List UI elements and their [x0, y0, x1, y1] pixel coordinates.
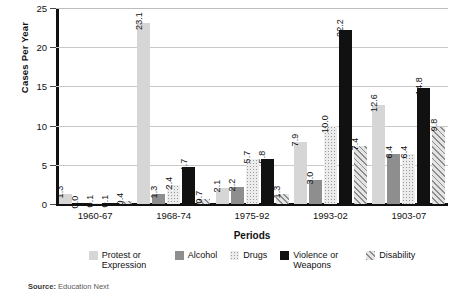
bar[interactable]: 0.4: [119, 201, 132, 204]
bar[interactable]: 6.4: [387, 154, 400, 204]
bar-slot: 12.6: [372, 8, 385, 204]
legend-item[interactable]: Protest or Expression: [89, 250, 162, 270]
bar-slot: 2.2: [231, 8, 244, 204]
bar-slot: 0.0: [74, 8, 87, 204]
bar-slot: 0.7: [197, 8, 210, 204]
bar-value-label: 2.4: [164, 177, 174, 190]
legend-item[interactable]: Alcohol: [175, 250, 218, 260]
bar-value-label: 7.4: [350, 138, 360, 151]
bar-slot: 5.8: [261, 8, 274, 204]
bar-value-label: 0.4: [115, 192, 125, 205]
bar-value-label: 5.8: [257, 150, 267, 163]
bar-slot: 3.0: [309, 8, 322, 204]
bar-slot: 0.4: [119, 8, 132, 204]
legend-item[interactable]: Violence or Weapons: [280, 250, 353, 270]
bar-value-label: 10.0: [320, 115, 330, 133]
bar[interactable]: 2.4: [167, 185, 180, 204]
y-axis-title: Cases Per Year: [19, 0, 30, 118]
bar-slot: 2.1: [216, 8, 229, 204]
bar-slot: 0.1: [89, 8, 102, 204]
bar-group: 23.11.32.44.70.7: [134, 8, 212, 204]
bar-slot: 14.8: [417, 8, 430, 204]
legend-swatch: [366, 251, 375, 260]
bar-value-label: 5.7: [242, 151, 252, 164]
source-note: Source: Education Next: [28, 282, 109, 290]
bar[interactable]: 7.4: [354, 146, 367, 204]
source-prefix: Source:: [28, 282, 56, 290]
bar-chart: Cases Per Year 0510152025 1.30.00.10.10.…: [0, 0, 456, 290]
bar-slot: 4.7: [182, 8, 195, 204]
bar[interactable]: 23.1: [137, 23, 150, 204]
bar[interactable]: 1.3: [276, 194, 289, 204]
source-text: Education Next: [58, 282, 109, 290]
bar[interactable]: 6.4: [402, 154, 415, 204]
legend-item[interactable]: Drugs: [230, 250, 267, 260]
bar[interactable]: 5.7: [246, 159, 259, 204]
bar-slot: 6.4: [387, 8, 400, 204]
y-axis-tick-label: 10: [36, 120, 47, 131]
bar-slot: 1.3: [152, 8, 165, 204]
legend-swatch: [175, 251, 184, 260]
bar-value-label: 23.1: [134, 12, 144, 30]
legend-label: Violence or Weapons: [293, 250, 353, 270]
y-axis-tick-label: 20: [36, 42, 47, 53]
bar[interactable]: 3.0: [309, 180, 322, 204]
plot-area: 0510152025 1.30.00.10.10.423.11.32.44.70…: [56, 8, 448, 204]
bar[interactable]: 9.8: [432, 127, 445, 204]
y-axis-tick: [50, 204, 56, 205]
bar[interactable]: 14.8: [417, 88, 430, 204]
bar-slot: 9.8: [432, 8, 445, 204]
bar-value-label: 6.4: [399, 145, 409, 158]
y-axis-tick-label: 15: [36, 81, 47, 92]
bar-slot: 0.1: [104, 8, 117, 204]
bar-group: 7.93.010.022.27.4: [291, 8, 369, 204]
x-axis-tick-label: 1975-92: [213, 210, 291, 221]
bar-slot: 1.3: [59, 8, 72, 204]
bar-value-label: 22.2: [335, 19, 345, 37]
legend-swatch: [230, 251, 239, 260]
bar-slot: 10.0: [324, 8, 337, 204]
bar-slot: 6.4: [402, 8, 415, 204]
bar-value-label: 12.6: [369, 94, 379, 112]
legend-label: Drugs: [243, 250, 267, 260]
bar-value-label: 0.7: [194, 190, 204, 203]
bar-value-label: 1.3: [149, 185, 159, 198]
bar-value-label: 2.2: [227, 178, 237, 191]
x-axis-tick-label: 1960-67: [56, 210, 134, 221]
bar-slot: 2.4: [167, 8, 180, 204]
bar-slot: 23.1: [137, 8, 150, 204]
legend-item[interactable]: Disability: [366, 250, 415, 260]
bar[interactable]: 22.2: [339, 30, 352, 204]
x-axis-tick-label: 1993-02: [291, 210, 369, 221]
legend-label: Protest or Expression: [102, 250, 162, 270]
x-axis-tick-label: 1968-74: [134, 210, 212, 221]
bar-slot: 7.4: [354, 8, 367, 204]
legend-label: Alcohol: [188, 250, 218, 260]
bar[interactable]: 10.0: [324, 126, 337, 204]
legend-swatch: [280, 251, 289, 260]
x-axis-tick-labels: 1960-671968-741975-921993-021903-07: [56, 210, 448, 221]
y-axis-tick-label: 25: [36, 3, 47, 14]
bar-value-label: 2.1: [212, 179, 222, 192]
legend-label: Disability: [379, 250, 415, 260]
bar-value-label: 0.0: [70, 196, 80, 209]
bar-value-label: 0.1: [100, 194, 110, 207]
bar-value-label: 1.3: [55, 185, 65, 198]
bar-group: 1.30.00.10.10.4: [56, 8, 134, 204]
bar-value-label: 14.8: [414, 77, 424, 95]
bar-value-label: 7.9: [290, 134, 300, 147]
y-axis-tick-label: 0: [42, 199, 47, 210]
bar-groups: 1.30.00.10.10.423.11.32.44.70.72.12.25.7…: [56, 8, 448, 204]
x-axis-title: Periods: [56, 230, 448, 241]
bar[interactable]: 0.7: [197, 199, 210, 204]
bar-group: 12.66.46.414.89.8: [370, 8, 448, 204]
bar-value-label: 3.0: [305, 172, 315, 185]
chart-legend: Protest or ExpressionAlcoholDrugsViolenc…: [56, 250, 448, 270]
bar-slot: 5.7: [246, 8, 259, 204]
bar[interactable]: 2.2: [231, 187, 244, 204]
y-axis-tick-label: 5: [42, 159, 47, 170]
x-axis-tick-label: 1903-07: [370, 210, 448, 221]
bar-value-label: 1.3: [272, 185, 282, 198]
bar-value-label: 4.7: [179, 159, 189, 172]
bar[interactable]: 1.3: [152, 194, 165, 204]
